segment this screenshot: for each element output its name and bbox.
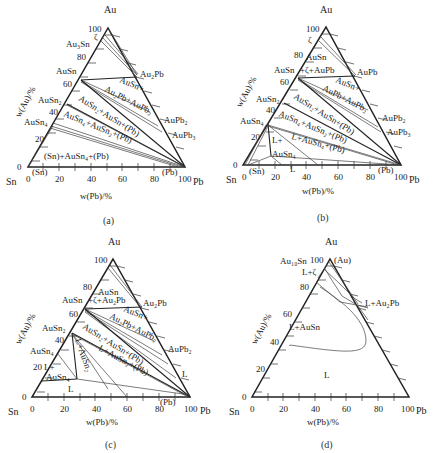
label-l-b: L bbox=[290, 164, 296, 174]
caption-a: (a) bbox=[103, 215, 114, 227]
btick-c-60: 60 bbox=[123, 404, 133, 414]
tick-c-40: 40 bbox=[55, 335, 65, 345]
tick-a-40: 40 bbox=[49, 107, 59, 117]
label-ausn4-b: AuSn₄ bbox=[240, 116, 264, 126]
region-b-0: +ζ+AuPb bbox=[300, 65, 335, 75]
btick-d-20: 20 bbox=[279, 404, 289, 414]
tick-b-0: 0 bbox=[233, 160, 238, 170]
tick-c-80: 80 bbox=[83, 282, 93, 292]
vertex-sn-d: Sn bbox=[229, 406, 240, 417]
ticks-d bbox=[254, 266, 406, 401]
btick-b-100: 100 bbox=[394, 172, 408, 182]
btick-b-40: 40 bbox=[302, 172, 312, 182]
label-aupb2-c: AuPb₂ bbox=[168, 344, 192, 354]
label-ausn2-c: AuSn₂ bbox=[42, 323, 66, 333]
label-l-zeta-d: L+ζ bbox=[302, 267, 317, 277]
label-aupb-b: AuPb bbox=[357, 67, 378, 77]
phase-boundaries-d bbox=[289, 262, 368, 351]
vertex-sn-c: Sn bbox=[8, 406, 19, 417]
btick-a-100: 100 bbox=[178, 174, 192, 184]
tick-c-100: 100 bbox=[94, 255, 108, 265]
label-l-d: L bbox=[324, 370, 330, 380]
label-ausn2-b: AuSn₂ bbox=[256, 94, 280, 104]
label-ausn2-a: AuSn₂ bbox=[38, 95, 62, 105]
label-au3sn-a: Au₃Sn bbox=[66, 39, 90, 49]
label-au2pb-c: Au₂Pb bbox=[143, 298, 167, 308]
panel-c: Au Sn Pb 100 80 60 40 20 0 0 20 40 60 80… bbox=[8, 236, 211, 451]
caption-c: (c) bbox=[105, 439, 116, 451]
btick-d-0: 0 bbox=[250, 404, 255, 414]
label-l-plus-c: L+ bbox=[44, 362, 55, 372]
label-aupb3-a: AuPb₃ bbox=[172, 130, 196, 140]
tick-a-0: 0 bbox=[17, 162, 22, 172]
label-sn-ss-b: (Sn) bbox=[249, 166, 265, 176]
vertex-pb-d: Pb bbox=[416, 405, 427, 416]
label-l-plus-b: L+ bbox=[272, 135, 283, 145]
ternary-phase-diagrams: Au Sn Pb 100 80 60 40 20 0 0 20 40 60 80… bbox=[0, 0, 439, 453]
btick-c-20: 20 bbox=[60, 404, 70, 414]
ylabel-a: w(Au)/% bbox=[13, 84, 38, 119]
btick-b-0: 0 bbox=[242, 172, 247, 182]
tick-a-80: 80 bbox=[77, 52, 87, 62]
vertex-pb-c: Pb bbox=[200, 405, 211, 416]
btick-a-80: 80 bbox=[150, 174, 160, 184]
btick-a-0: 0 bbox=[26, 174, 31, 184]
xlabel-b: w(Pb)/% bbox=[302, 186, 334, 196]
label-sn-ss-a: (Sn) bbox=[32, 167, 48, 177]
tick-a-20: 20 bbox=[35, 134, 45, 144]
label-aupb2-a: AuPb₂ bbox=[164, 115, 188, 125]
label-au-ss-d: (Au) bbox=[334, 255, 351, 265]
panel-d: Au Sn Pb 100 80 60 40 20 0 0 20 40 60 80… bbox=[229, 236, 427, 451]
vertex-pb-b: Pb bbox=[409, 174, 420, 185]
vertex-sn-b: Sn bbox=[226, 174, 237, 185]
ylabel-b: w(Au)/% bbox=[234, 74, 259, 109]
label-l-ausn4-c: AuSn₄ bbox=[46, 372, 70, 382]
tick-b-100: 100 bbox=[306, 24, 320, 34]
btick-c-100: 100 bbox=[184, 404, 198, 414]
btick-d-60: 60 bbox=[342, 404, 352, 414]
btick-c-0: 0 bbox=[30, 404, 35, 414]
label-ausn-a: AuSn bbox=[56, 66, 77, 76]
btick-b-20: 20 bbox=[271, 172, 281, 182]
region-a-5: (Sn)+AuSn₄+(Pb) bbox=[44, 151, 109, 161]
vertex-sn-a: Sn bbox=[6, 176, 17, 187]
btick-b-80: 80 bbox=[366, 172, 376, 182]
label-ausn4-a: AuSn₄ bbox=[24, 117, 48, 127]
btick-d-40: 40 bbox=[311, 404, 321, 414]
label-l-ausn4-b: AuSn₄ bbox=[272, 149, 296, 159]
btick-a-60: 60 bbox=[118, 174, 128, 184]
tick-d-60: 60 bbox=[283, 309, 293, 319]
caption-d: (d) bbox=[321, 439, 333, 451]
label-au10sn-d: Au₁₀Sn bbox=[280, 256, 307, 266]
vertex-au-c: Au bbox=[108, 236, 120, 247]
label-l-right-c: L bbox=[182, 369, 188, 379]
label-pb-ss-b: (Pb) bbox=[378, 165, 394, 175]
btick-a-20: 20 bbox=[55, 174, 65, 184]
tick-d-80: 80 bbox=[300, 282, 310, 292]
tick-b-60: 60 bbox=[280, 77, 290, 87]
tick-c-0: 0 bbox=[22, 392, 27, 402]
label-zeta-a: ζ bbox=[94, 32, 98, 42]
tick-c-20: 20 bbox=[33, 362, 43, 372]
xlabel-d: w(Pb)/% bbox=[307, 417, 339, 427]
tick-d-20: 20 bbox=[256, 364, 266, 374]
tick-b-40: 40 bbox=[266, 105, 276, 115]
tick-d-100: 100 bbox=[310, 255, 324, 265]
vertex-au-a: Au bbox=[104, 4, 116, 15]
tick-b-20: 20 bbox=[251, 132, 261, 142]
vertex-au-b: Au bbox=[320, 4, 332, 15]
label-aupb2-b: AuPb₂ bbox=[382, 113, 406, 123]
label-aupb3-b: AuPb₃ bbox=[387, 127, 411, 137]
label-pb-ss-a: (Pb) bbox=[162, 167, 178, 177]
label-au2pb-a: Au₂Pb bbox=[140, 69, 164, 79]
xlabel-a: w(Pb)/% bbox=[80, 191, 112, 201]
label-ausn-top-b: AuSn bbox=[306, 52, 327, 62]
label-ausn-b: AuSn bbox=[274, 65, 295, 75]
ylabel-c: w(Au)/% bbox=[13, 311, 38, 346]
triangle-d bbox=[252, 259, 409, 397]
btick-b-60: 60 bbox=[334, 172, 344, 182]
tick-c-60: 60 bbox=[69, 309, 79, 319]
btick-d-80: 80 bbox=[374, 404, 384, 414]
label-pb-ss-c: (Pb) bbox=[160, 397, 176, 407]
btick-a-40: 40 bbox=[87, 174, 97, 184]
